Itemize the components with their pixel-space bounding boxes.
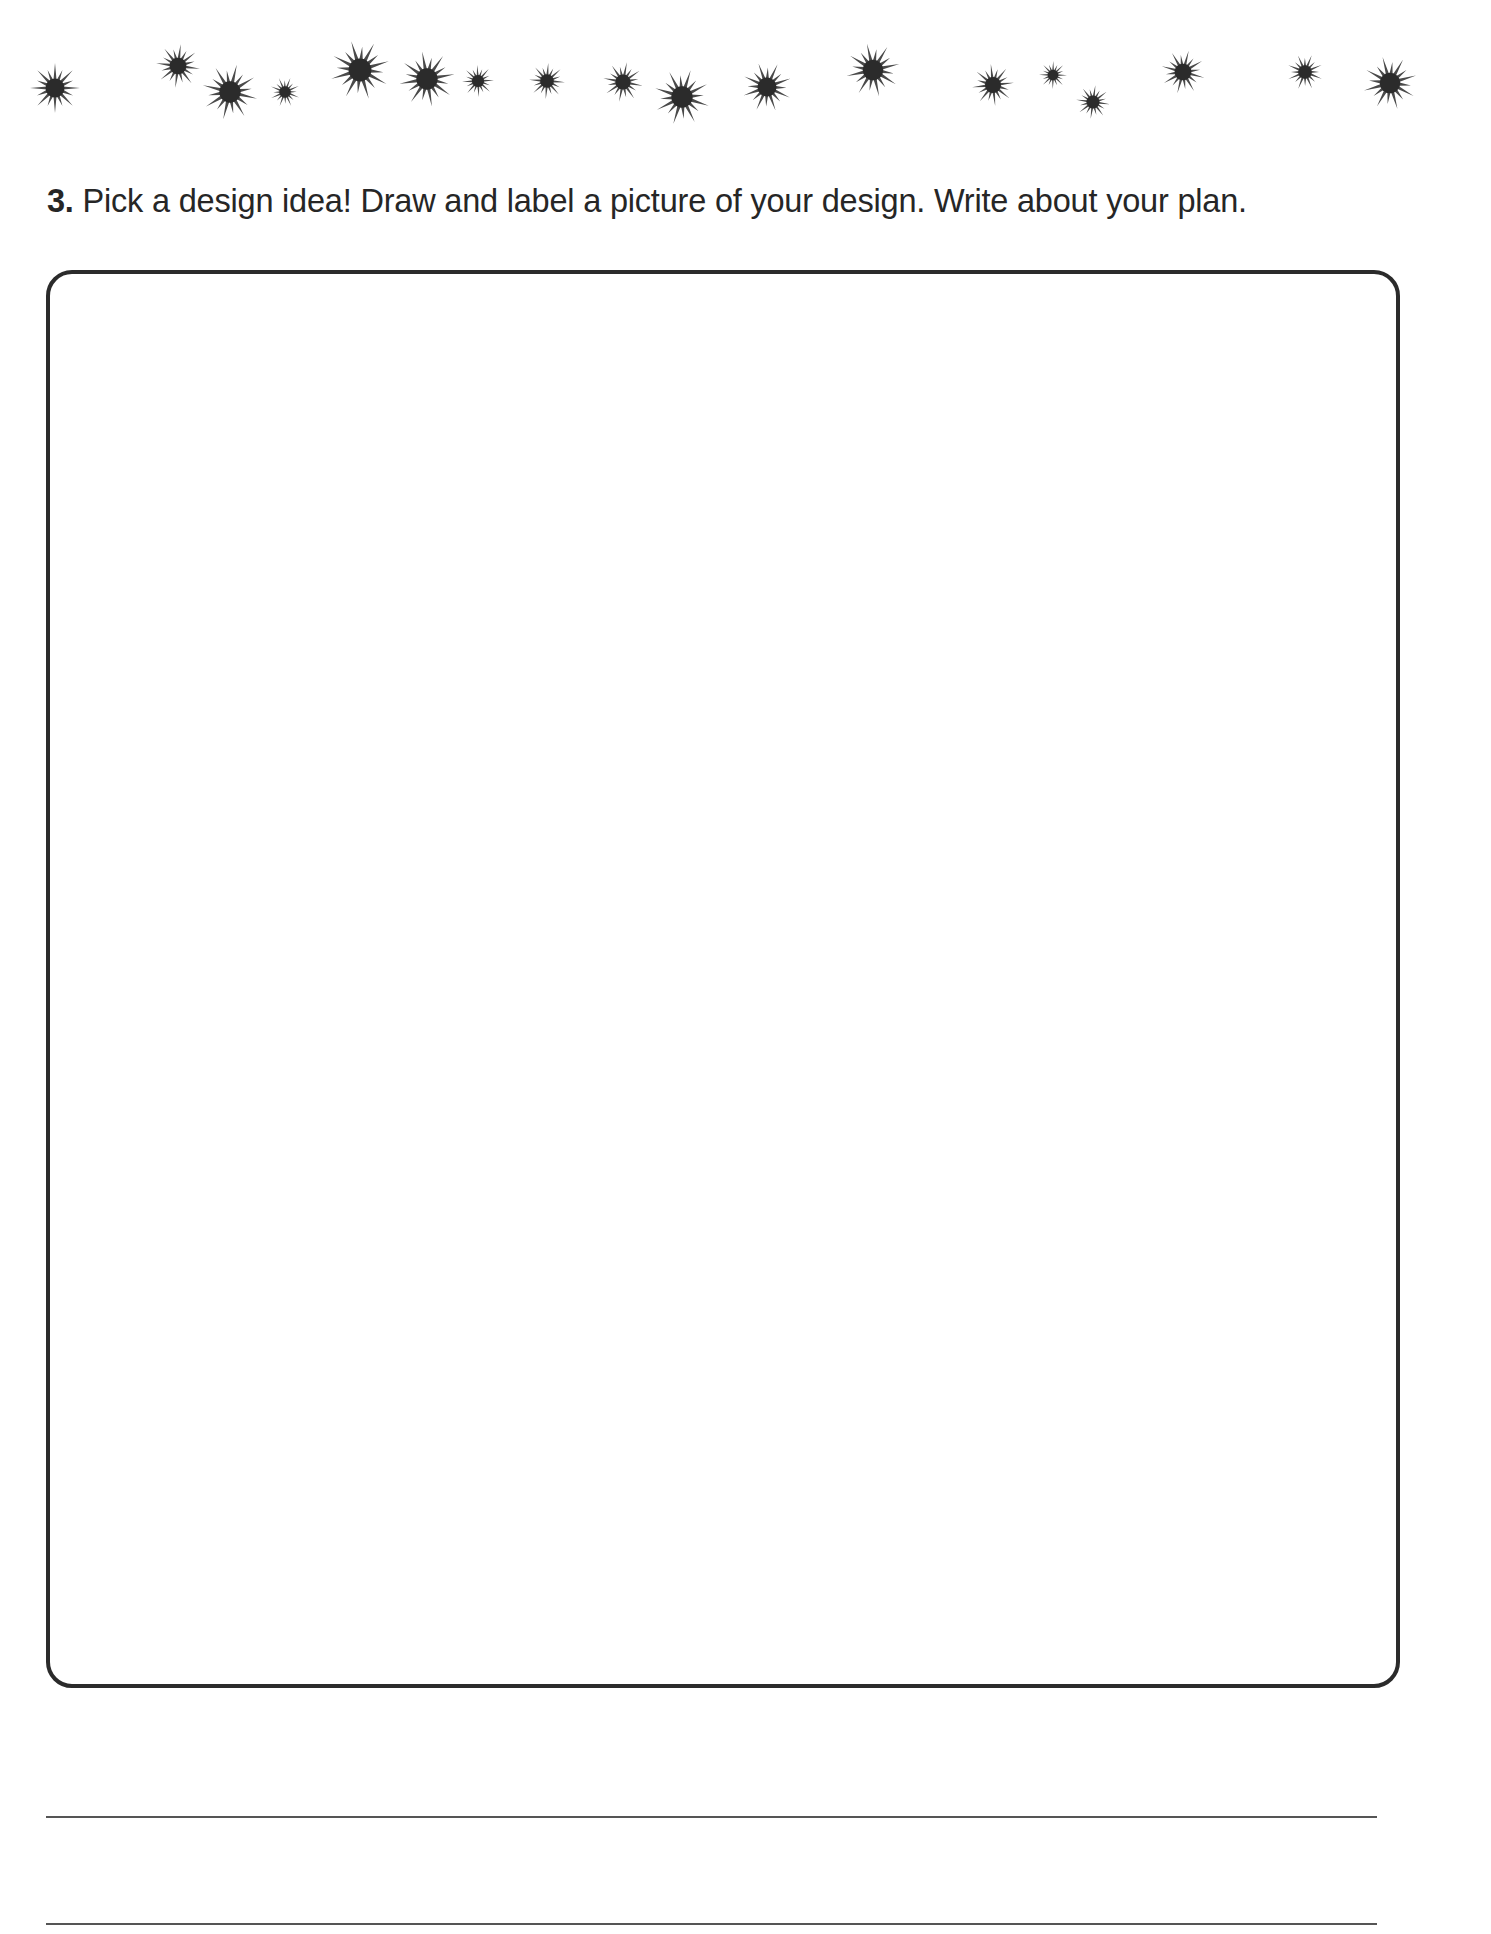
starburst-icon — [397, 49, 457, 109]
starburst-icon — [328, 38, 392, 102]
writing-line-1[interactable] — [46, 1816, 1377, 1818]
starburst-icon — [28, 61, 82, 115]
starburst-icon — [460, 63, 496, 99]
question-text: Pick a design idea! Draw and label a pic… — [83, 183, 1247, 219]
starburst-icon — [740, 60, 794, 114]
drawing-box[interactable] — [46, 270, 1400, 1688]
writing-line-2[interactable] — [46, 1923, 1377, 1925]
starburst-icon — [268, 75, 302, 109]
starburst-icon — [1159, 48, 1207, 96]
starburst-icon — [154, 42, 202, 90]
starburst-icon — [844, 41, 902, 99]
starburst-icon — [527, 61, 567, 101]
starburst-icon — [601, 60, 645, 104]
question-prompt: 3. Pick a design idea! Draw and label a … — [47, 181, 1247, 221]
starburst-icon — [200, 62, 260, 122]
starburst-icon — [1285, 52, 1325, 92]
question-number: 3. — [47, 183, 74, 219]
starburst-icon — [1361, 54, 1419, 112]
starburst-icon — [970, 62, 1016, 108]
starburst-icon — [1037, 59, 1069, 91]
starburst-icon — [1074, 83, 1112, 121]
starburst-border — [0, 0, 1491, 140]
starburst-icon — [652, 67, 712, 127]
